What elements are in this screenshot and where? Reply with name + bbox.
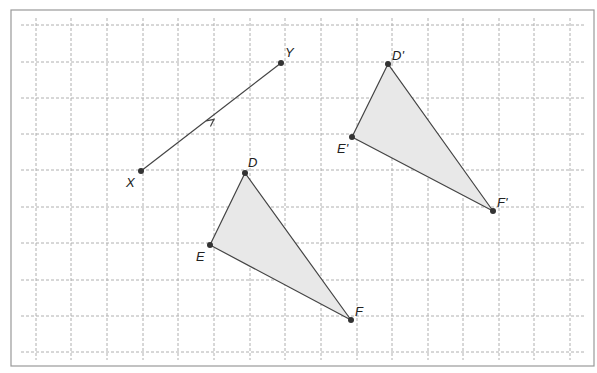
- label-e-prime: E': [337, 141, 349, 156]
- label-f: F: [355, 304, 364, 319]
- point-x: [138, 168, 144, 174]
- point-f-prime: [490, 208, 496, 214]
- label-d: D: [248, 155, 257, 170]
- point-y: [278, 60, 284, 66]
- frame: [11, 10, 594, 366]
- point-f: [348, 317, 354, 323]
- label-d-prime: D': [392, 48, 404, 63]
- translation-diagram: XYDEFD'E'F': [0, 0, 597, 373]
- point-e: [207, 242, 213, 248]
- label-y: Y: [285, 45, 295, 60]
- point-d: [242, 170, 248, 176]
- label-f-prime: F': [497, 195, 508, 210]
- label-x: X: [125, 175, 136, 190]
- point-e-prime: [349, 134, 355, 140]
- point-d-prime: [385, 61, 391, 67]
- label-e: E: [196, 249, 205, 264]
